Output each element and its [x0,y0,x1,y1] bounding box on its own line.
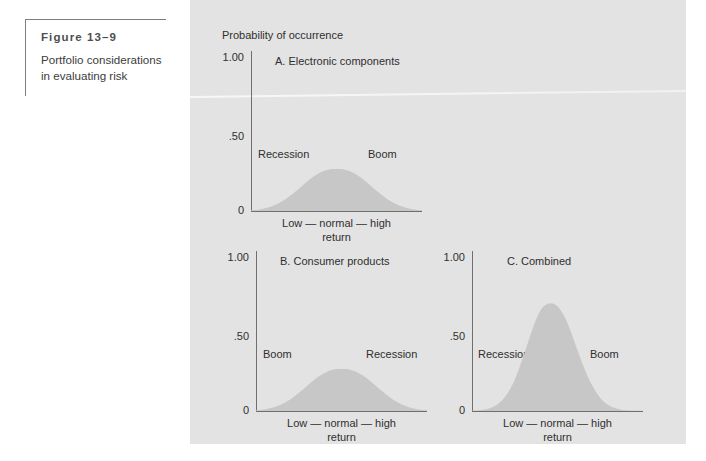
chart-b-ytick-1: 1.00 [203,251,249,263]
figure-caption-line-1: Portfolio considerations [41,52,176,68]
figure-page: Figure 13–9 Portfolio considerations in … [0,0,706,461]
chart-b-consumer-products: 1.00 .50 0 B. Consumer products Boom Rec… [190,245,430,445]
caption-rule-left [25,19,26,96]
chart-c-x-caption: Low — normal — high return [472,416,643,444]
chart-b-distribution-curve [256,251,427,412]
chart-a-ytick-1: 1.00 [198,51,244,63]
caption-rule-top [25,19,166,20]
figure-number: Figure 13–9 [41,31,176,43]
chart-b-x-caption-line-2: return [256,430,427,444]
chart-b-ytick-2: .50 [203,330,249,342]
chart-b-x-caption-line-1: Low — normal — high [256,416,427,430]
chart-a-distribution-curve [251,51,422,212]
chart-a-electronic-components: 1.00 .50 0 A. Electronic components Rece… [190,0,430,240]
figure-caption: Figure 13–9 Portfolio considerations in … [41,31,176,83]
chart-c-combined: 1.00 .50 0 C. Combined Recession Boom Lo… [406,245,656,445]
chart-c-ytick-3: 0 [419,404,465,416]
chart-a-ytick-2: .50 [198,130,244,142]
chart-c-ytick-2: .50 [419,330,465,342]
chart-a-x-caption-line-2: return [251,230,422,244]
chart-b-x-caption: Low — normal — high return [256,416,427,444]
figure-caption-line-2: in evaluating risk [41,68,176,84]
chart-c-x-caption-line-1: Low — normal — high [472,416,643,430]
chart-c-x-caption-line-2: return [472,430,643,444]
chart-a-ytick-3: 0 [198,204,244,216]
chart-a-x-caption-line-1: Low — normal — high [251,216,422,230]
chart-c-ytick-1: 1.00 [419,251,465,263]
chart-c-distribution-curve [472,251,643,412]
figure-panel: Probability of occurrence 1.00 .50 0 A. … [190,0,686,444]
chart-a-x-caption: Low — normal — high return [251,216,422,244]
chart-b-ytick-3: 0 [203,404,249,416]
